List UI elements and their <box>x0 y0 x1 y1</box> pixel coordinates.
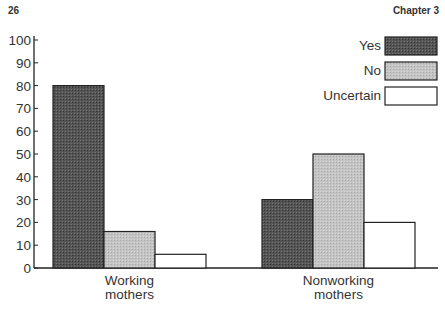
legend-swatch-uncertain <box>385 87 437 105</box>
y-tick-label: 10 <box>16 238 31 253</box>
y-tick-label: 30 <box>16 193 31 208</box>
bar-no-working <box>104 232 155 268</box>
legend-swatch-yes <box>385 37 437 55</box>
y-tick-label: 20 <box>16 215 31 230</box>
bar-uncertain-working <box>155 254 206 268</box>
legend-label-yes: Yes <box>359 38 381 53</box>
bar-uncertain-nonworking <box>364 222 415 268</box>
legend-label-no: No <box>364 63 381 78</box>
y-tick-label: 60 <box>16 124 31 139</box>
bars <box>53 86 415 268</box>
y-tick-label: 80 <box>16 79 31 94</box>
y-tick-label: 100 <box>8 33 31 48</box>
bar-chart: 0102030405060708090100 WorkingmothersNon… <box>0 0 445 311</box>
category-label: mothers <box>314 287 363 302</box>
y-tick-label: 0 <box>23 261 31 276</box>
category-label: Nonworking <box>303 273 374 288</box>
legend-swatch-no <box>385 62 437 80</box>
y-tick-label: 40 <box>16 170 31 185</box>
category-label: Working <box>105 273 154 288</box>
category-label: mothers <box>105 287 154 302</box>
legend-label-uncertain: Uncertain <box>323 88 381 103</box>
legend: YesNoUncertain <box>323 37 437 105</box>
y-tick-label: 70 <box>16 101 31 116</box>
category-labels: WorkingmothersNonworkingmothers <box>105 273 374 302</box>
y-tick-label: 90 <box>16 56 31 71</box>
bar-yes-working <box>53 86 104 268</box>
bar-no-nonworking <box>313 154 364 268</box>
y-tick-label: 50 <box>16 147 31 162</box>
bar-yes-nonworking <box>262 200 313 268</box>
